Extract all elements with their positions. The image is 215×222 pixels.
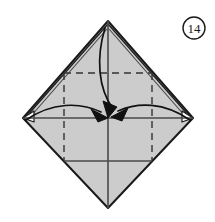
step-number-badge: 14 bbox=[183, 17, 205, 39]
step-badge-label: 14 bbox=[188, 21, 202, 36]
origami-diagram-svg: 14 bbox=[0, 0, 215, 222]
origami-figure: 14 bbox=[0, 0, 215, 222]
